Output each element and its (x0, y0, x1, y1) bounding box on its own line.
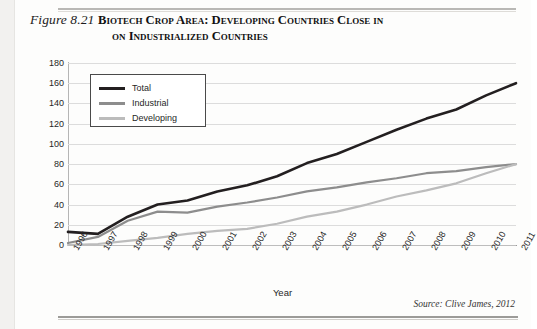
figure-heading: Figure 8.21Biotech Crop Area: Developing… (30, 12, 520, 44)
legend-swatch-total (99, 87, 125, 90)
figure-source: Source: Clive James, 2012 (414, 299, 515, 309)
legend-label-industrial: Industrial (132, 99, 169, 108)
legend-item-developing: Developing (99, 111, 205, 126)
figure-title: Biotech Crop Area: Developing Countries … (98, 12, 508, 44)
top-rule (58, 8, 516, 10)
bottom-rule (58, 316, 518, 318)
figure-title-line1: Biotech Crop Area: Developing Countries … (98, 13, 383, 27)
y-tick-140: 140 (38, 99, 64, 108)
bottom-rule-secondary (58, 319, 518, 320)
chart-legend: Total Industrial Developing (90, 74, 206, 127)
y-tick-20: 20 (38, 221, 64, 230)
y-tick-180: 180 (38, 59, 64, 68)
x-axis-title-text: Year (239, 287, 292, 298)
legend-swatch-developing (99, 117, 125, 120)
x-axis-tick-labels: 1996199719981999200020012002200320042005… (0, 247, 531, 292)
y-tick-120: 120 (38, 120, 64, 129)
figure-title-line2: on Industrialized Countries (98, 28, 508, 44)
y-tick-80: 80 (38, 160, 64, 169)
legend-item-total: Total (99, 81, 205, 96)
x-tick-2011: 2011 (519, 230, 537, 252)
x-axis-title: Year (0, 287, 531, 298)
legend-label-total: Total (132, 84, 151, 93)
y-tick-60: 60 (38, 180, 64, 189)
y-tick-160: 160 (38, 79, 64, 88)
y-tick-100: 100 (38, 140, 64, 149)
y-tick-40: 40 (38, 201, 64, 210)
legend-item-industrial: Industrial (99, 96, 205, 111)
legend-label-developing: Developing (132, 114, 177, 123)
legend-swatch-industrial (99, 102, 125, 105)
